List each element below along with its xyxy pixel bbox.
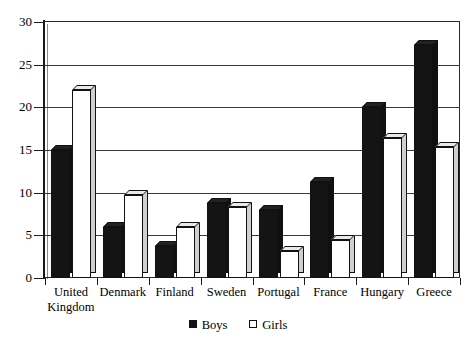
x-axis-tick-mark <box>356 278 357 285</box>
x-axis-category-label-line1: Denmark <box>100 285 147 299</box>
bar-side-face <box>350 235 355 273</box>
bar-front-face <box>280 251 299 278</box>
y-axis-tick-mark <box>34 150 43 151</box>
bar-group <box>304 22 356 278</box>
y-axis-tick-label: 10 <box>19 186 32 199</box>
x-axis-category-label-line1: Portugal <box>257 285 299 299</box>
legend-item-label: Girls <box>262 318 287 332</box>
bar-front-face <box>72 90 91 278</box>
y-axis-tick-label: 15 <box>19 143 32 156</box>
chart-legend: BoysGirls <box>0 317 476 332</box>
x-axis-category-label-line1: Greece <box>416 285 451 299</box>
x-axis-category-label-line1: Finland <box>156 285 194 299</box>
y-axis-tick-label: 25 <box>19 58 32 71</box>
bar-side-face <box>143 190 148 273</box>
x-axis-category-label: Portugal <box>257 285 299 300</box>
x-axis-category-label-line1: Hungary <box>360 285 404 299</box>
x-axis-tick-mark <box>45 278 46 285</box>
bar-front-face <box>259 210 278 278</box>
bar-front-face <box>228 207 247 278</box>
y-axis-tick-mark <box>34 65 43 66</box>
x-axis-category-label-line1: United <box>54 285 88 299</box>
x-axis-category-label: Denmark <box>100 285 147 300</box>
bar-group <box>356 22 408 278</box>
y-axis-tick-mark <box>34 22 43 23</box>
bar-chart-figure: 051015202530 UnitedKingdomDenmarkFinland… <box>0 0 476 342</box>
x-axis-category-label: France <box>313 285 347 300</box>
y-axis-tick-mark <box>34 278 43 279</box>
x-axis-category-label-line1: France <box>313 285 347 299</box>
y-axis-tick-mark <box>34 107 43 108</box>
x-axis-tick-mark <box>304 278 305 285</box>
x-axis-tick-mark <box>97 278 98 285</box>
bar-group <box>408 22 460 278</box>
bar-side-face <box>247 202 252 273</box>
x-axis-category-label-line1: Sweden <box>207 285 247 299</box>
x-axis-category-label: Hungary <box>360 285 404 300</box>
x-axis-category-label: UnitedKingdom <box>47 285 94 315</box>
bar-front-face <box>414 45 433 278</box>
bar-front-face <box>176 227 195 278</box>
x-axis-tick-mark <box>253 278 254 285</box>
y-axis-tick-label: 30 <box>19 15 32 28</box>
bar-group <box>149 22 201 278</box>
x-axis-category-label: Finland <box>156 285 194 300</box>
bar-side-face <box>195 222 200 273</box>
bar-front-face <box>362 107 381 278</box>
x-axis-tick-mark <box>460 278 461 285</box>
bar-front-face <box>51 150 70 278</box>
y-axis-tick-label: 0 <box>26 271 33 284</box>
legend-item: Boys <box>189 317 228 332</box>
plot-area <box>45 22 460 278</box>
bar-front-face <box>103 227 122 278</box>
y-axis-tick-label: 20 <box>19 100 32 113</box>
bar-front-face <box>331 240 350 278</box>
legend-item: Girls <box>249 317 287 332</box>
x-axis-category-label-line2: Kingdom <box>47 300 94 315</box>
x-axis-tick-mark <box>201 278 202 285</box>
y-axis-tick-mark <box>34 193 43 194</box>
bar-front-face <box>435 147 454 278</box>
x-axis-tick-mark <box>408 278 409 285</box>
bar-group <box>97 22 149 278</box>
bar-front-face <box>310 182 329 278</box>
bar-group <box>45 22 97 278</box>
bar-side-face <box>402 133 407 273</box>
legend-item-label: Boys <box>202 318 228 332</box>
bar-front-face <box>383 138 402 278</box>
bar-front-face <box>155 246 174 278</box>
bar-side-face <box>91 85 96 273</box>
filled-square-icon <box>189 320 197 328</box>
bar-group <box>201 22 253 278</box>
bar-front-face <box>207 203 226 278</box>
x-axis-category-label: Sweden <box>207 285 247 300</box>
bar-front-face <box>124 195 143 278</box>
bar-group <box>253 22 305 278</box>
bar-side-face <box>454 142 459 273</box>
y-axis-tick-label: 5 <box>26 228 33 241</box>
hollow-square-icon <box>249 320 257 328</box>
x-axis-tick-mark <box>149 278 150 285</box>
y-axis-tick-mark <box>34 235 43 236</box>
x-axis-category-label: Greece <box>416 285 451 300</box>
